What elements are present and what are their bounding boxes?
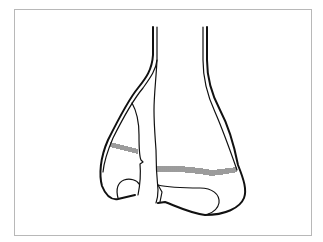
bone-fracture-diagram (0, 0, 323, 242)
medial-inner-contour (203, 27, 237, 170)
growth-plate-fibula (111, 142, 137, 154)
talar-surface (158, 185, 219, 214)
growth-plate-tibia (158, 166, 236, 176)
fibula-fragment-edge (132, 103, 143, 195)
talar-notch (158, 185, 162, 202)
fracture-line (154, 60, 158, 203)
